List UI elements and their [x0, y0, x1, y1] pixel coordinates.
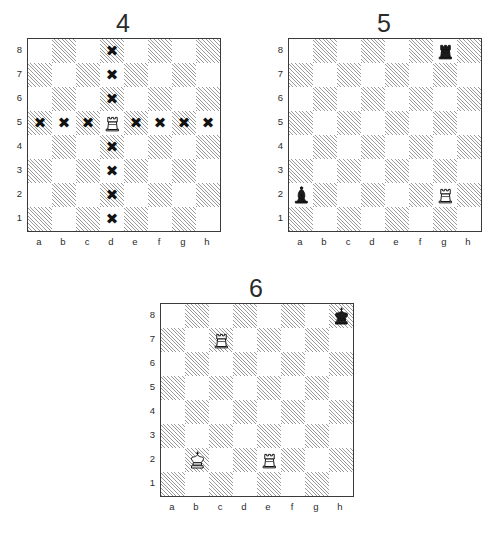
board-square-g6[interactable]: [433, 87, 457, 111]
board-square-f7[interactable]: [281, 328, 305, 352]
board-square-b8[interactable]: [52, 39, 76, 63]
board-square-a5[interactable]: [161, 376, 185, 400]
board-square-h5[interactable]: [457, 111, 481, 135]
board-square-h6[interactable]: [196, 87, 220, 111]
board-square-e6[interactable]: [385, 87, 409, 111]
board-square-a4[interactable]: [28, 135, 52, 159]
board-square-a3[interactable]: [161, 424, 185, 448]
board-square-f1[interactable]: [281, 472, 305, 496]
board-square-h6[interactable]: [329, 352, 353, 376]
board-square-h3[interactable]: [329, 424, 353, 448]
board-square-b8[interactable]: [313, 39, 337, 63]
board-square-f4[interactable]: [409, 135, 433, 159]
board-square-a2[interactable]: [28, 183, 52, 207]
board-square-b1[interactable]: [313, 207, 337, 231]
board-square-c4[interactable]: [76, 135, 100, 159]
board-square-g4[interactable]: [433, 135, 457, 159]
board-square-a2[interactable]: [161, 448, 185, 472]
board-square-d5[interactable]: [100, 111, 124, 135]
board-square-f4[interactable]: [148, 135, 172, 159]
board-square-e4[interactable]: [385, 135, 409, 159]
board-square-a5[interactable]: [289, 111, 313, 135]
board-square-h4[interactable]: [196, 135, 220, 159]
board-square-h2[interactable]: [196, 183, 220, 207]
board-square-b3[interactable]: [313, 159, 337, 183]
board-square-g1[interactable]: [172, 207, 196, 231]
board-square-h1[interactable]: [457, 207, 481, 231]
board-square-c1[interactable]: [337, 207, 361, 231]
board-square-d2[interactable]: [233, 448, 257, 472]
board-square-d3[interactable]: [233, 424, 257, 448]
board-square-c2[interactable]: [337, 183, 361, 207]
board-square-b6[interactable]: [52, 87, 76, 111]
board-square-g3[interactable]: [305, 424, 329, 448]
board-square-a1[interactable]: [28, 207, 52, 231]
board-square-b1[interactable]: [52, 207, 76, 231]
board-square-f4[interactable]: [281, 400, 305, 424]
board-square-a8[interactable]: [28, 39, 52, 63]
board-square-g1[interactable]: [305, 472, 329, 496]
board-square-d6[interactable]: [361, 87, 385, 111]
board-square-g4[interactable]: [305, 400, 329, 424]
board-square-e8[interactable]: [124, 39, 148, 63]
board-square-g1[interactable]: [433, 207, 457, 231]
board-square-a1[interactable]: [289, 207, 313, 231]
board-square-h7[interactable]: [329, 328, 353, 352]
board-square-b4[interactable]: [313, 135, 337, 159]
board-square-g3[interactable]: [172, 159, 196, 183]
board-square-c8[interactable]: [337, 39, 361, 63]
board-square-c5[interactable]: [337, 111, 361, 135]
board-square-c6[interactable]: [209, 352, 233, 376]
board-square-c2[interactable]: [76, 183, 100, 207]
board-square-f6[interactable]: [409, 87, 433, 111]
board-square-a4[interactable]: [161, 400, 185, 424]
board-square-c3[interactable]: [209, 424, 233, 448]
board-square-h4[interactable]: [457, 135, 481, 159]
board-square-c1[interactable]: [76, 207, 100, 231]
board-square-b2[interactable]: [313, 183, 337, 207]
board-square-d5[interactable]: [361, 111, 385, 135]
board-square-h3[interactable]: [457, 159, 481, 183]
board-square-c7[interactable]: [337, 63, 361, 87]
board-square-c3[interactable]: [76, 159, 100, 183]
board-square-a7[interactable]: [28, 63, 52, 87]
board-square-c6[interactable]: [337, 87, 361, 111]
board-square-g6[interactable]: [305, 352, 329, 376]
board-square-g7[interactable]: [172, 63, 196, 87]
board-square-a3[interactable]: [289, 159, 313, 183]
board-square-e1[interactable]: [385, 207, 409, 231]
board-square-e2[interactable]: [385, 183, 409, 207]
board-square-h8[interactable]: [457, 39, 481, 63]
board-square-h1[interactable]: [196, 207, 220, 231]
board-square-e6[interactable]: [257, 352, 281, 376]
board-square-b5[interactable]: [313, 111, 337, 135]
board-square-c3[interactable]: [337, 159, 361, 183]
board-square-f6[interactable]: [148, 87, 172, 111]
board-square-c7[interactable]: [76, 63, 100, 87]
board-square-c5[interactable]: [209, 376, 233, 400]
board-square-g6[interactable]: [172, 87, 196, 111]
board-square-a4[interactable]: [289, 135, 313, 159]
board-square-e7[interactable]: [385, 63, 409, 87]
board-square-e8[interactable]: [257, 304, 281, 328]
board-square-g8[interactable]: [433, 39, 457, 63]
board-square-d1[interactable]: [233, 472, 257, 496]
board-square-a6[interactable]: [28, 87, 52, 111]
board-square-e8[interactable]: [385, 39, 409, 63]
board-square-d4[interactable]: [361, 135, 385, 159]
board-square-g8[interactable]: [305, 304, 329, 328]
board-square-b5[interactable]: [185, 376, 209, 400]
board-square-f3[interactable]: [148, 159, 172, 183]
board-square-g2[interactable]: [172, 183, 196, 207]
board-square-g5[interactable]: [305, 376, 329, 400]
board-square-f5[interactable]: [409, 111, 433, 135]
board-square-d6[interactable]: [233, 352, 257, 376]
board-square-f2[interactable]: [148, 183, 172, 207]
board-square-g7[interactable]: [433, 63, 457, 87]
board-square-d2[interactable]: [361, 183, 385, 207]
board-square-e2[interactable]: [124, 183, 148, 207]
board-square-c4[interactable]: [209, 400, 233, 424]
board-square-b7[interactable]: [185, 328, 209, 352]
board-square-b3[interactable]: [185, 424, 209, 448]
board-square-a6[interactable]: [161, 352, 185, 376]
